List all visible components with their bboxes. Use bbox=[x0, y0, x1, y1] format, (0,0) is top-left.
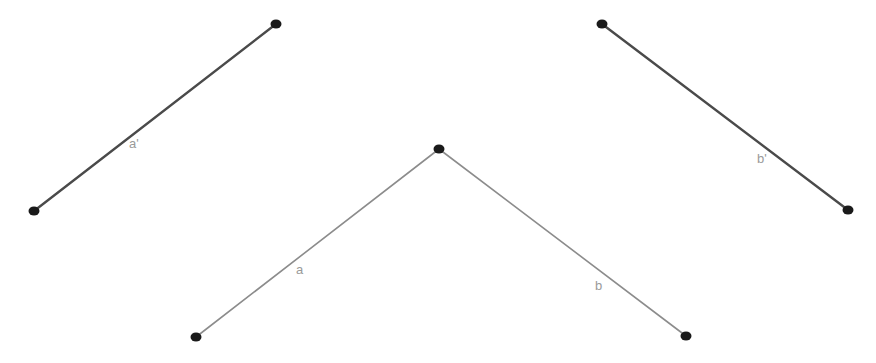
point-b-prime-start[interactable] bbox=[597, 20, 608, 29]
geometry-canvas: a'b'ab bbox=[0, 0, 876, 363]
segment-b-prime[interactable] bbox=[602, 24, 848, 210]
point-a-prime-start[interactable] bbox=[29, 207, 40, 216]
segment-label-b: b bbox=[595, 278, 602, 293]
segment-label-a-prime: a' bbox=[129, 136, 139, 151]
point-a-start[interactable] bbox=[191, 333, 202, 342]
segments-layer bbox=[34, 24, 848, 337]
segment-label-a: a bbox=[296, 262, 304, 277]
labels-layer: a'b'ab bbox=[129, 136, 767, 293]
segment-label-b-prime: b' bbox=[757, 151, 767, 166]
point-vertex[interactable] bbox=[434, 145, 445, 154]
segment-a[interactable] bbox=[196, 149, 439, 337]
segment-a-prime[interactable] bbox=[34, 24, 276, 211]
point-b-prime-end[interactable] bbox=[843, 206, 854, 215]
points-layer bbox=[29, 20, 854, 342]
point-a-prime-end[interactable] bbox=[271, 20, 282, 29]
segment-b[interactable] bbox=[439, 149, 686, 336]
point-b-end[interactable] bbox=[681, 332, 692, 341]
